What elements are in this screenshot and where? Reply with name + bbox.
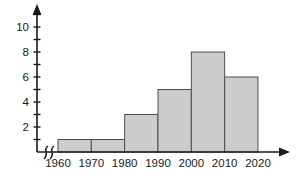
y-tick-label: 4 — [23, 96, 30, 108]
y-tick-label: 6 — [23, 71, 29, 83]
histogram-bar — [158, 90, 191, 153]
x-tick-label: 1990 — [145, 157, 171, 169]
x-tick-label: 1980 — [112, 157, 138, 169]
x-axis-arrowhead — [279, 148, 290, 157]
x-tick-label: 1970 — [79, 157, 105, 169]
x-tick-label: 1960 — [45, 157, 71, 169]
y-tick-label: 10 — [16, 21, 29, 33]
x-tick-label: 2020 — [245, 157, 271, 169]
histogram-bar — [191, 52, 224, 152]
x-tick-label: 2010 — [212, 157, 238, 169]
histogram-bar — [91, 140, 124, 153]
x-tick-label: 2000 — [179, 157, 205, 169]
y-tick-label: 8 — [23, 46, 29, 58]
histogram-bar — [125, 115, 158, 153]
histogram-bar — [225, 77, 258, 152]
y-tick-label: 2 — [23, 121, 29, 133]
y-axis-arrowhead — [33, 4, 42, 15]
histogram-chart: 2468101960197019801990200020102020 — [0, 0, 298, 178]
histogram-bar — [58, 140, 91, 153]
histogram-canvas: 2468101960197019801990200020102020 — [0, 0, 298, 178]
